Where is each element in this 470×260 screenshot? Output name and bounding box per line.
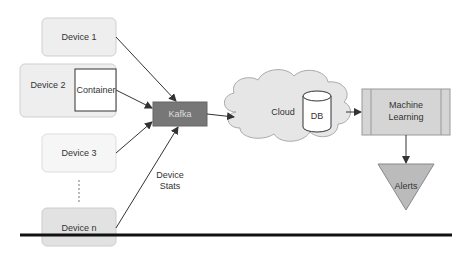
device-1-node: Device 1 [42, 18, 116, 56]
ml-label-line2: Learning [388, 112, 423, 122]
cloud-label: Cloud [271, 107, 295, 117]
ml-node: Machine Learning [362, 89, 450, 135]
device-stats-label-line2: Stats [160, 181, 181, 191]
container-label: Container [76, 85, 115, 95]
kafka-node: Kafka [153, 102, 207, 126]
db-node: DB [303, 91, 331, 132]
arrow-container-kafka [116, 90, 152, 108]
alerts-node: Alerts [378, 164, 434, 210]
alerts-label: Alerts [394, 181, 418, 191]
device-3-node: Device 3 [42, 134, 116, 172]
device-1-label: Device 1 [61, 32, 96, 42]
device-3-label: Device 3 [61, 148, 96, 158]
kafka-label: Kafka [168, 109, 191, 119]
cloud-node: Cloud [224, 70, 350, 142]
db-label: DB [311, 111, 324, 121]
ml-label-line1: Machine [389, 100, 423, 110]
arrow-device3-kafka [116, 122, 152, 153]
device-stats-label-line1: Device [156, 170, 184, 180]
device-2-node: Device 2 Container [20, 64, 116, 117]
device-n-node: Device n [42, 208, 116, 246]
device-n-label: Device n [61, 223, 96, 233]
arrow-device1-kafka [116, 37, 176, 101]
device-2-label: Device 2 [30, 80, 65, 90]
architecture-diagram: Device 1 Device 2 Container Device 3 Dev… [0, 0, 470, 260]
